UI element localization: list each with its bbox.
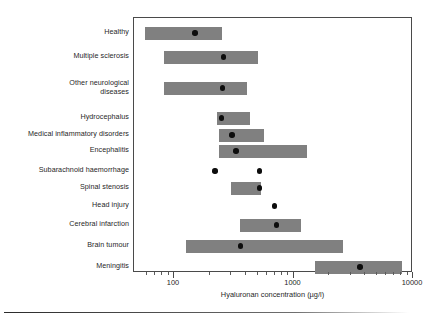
x-tick-major [173,272,174,278]
range-bar [240,219,301,232]
median-dot [229,132,234,137]
range-bar [164,51,257,64]
category-label: Head injury [0,201,129,209]
category-label: Hydrocephalus [0,113,129,121]
data-point-dot [257,168,262,173]
x-tick-minor [209,272,210,275]
x-tick-minor [161,272,162,275]
category-label: Cerebral infarction [0,220,129,228]
median-dot [221,54,226,59]
median-dot [192,30,197,35]
category-label: Healthy [0,28,129,36]
range-bar [219,129,264,142]
x-tick-minor [393,272,394,275]
x-tick-minor [257,272,258,275]
x-axis-title: Hyaluronan concentration (µg/l) [133,290,412,299]
x-tick-minor [364,272,365,275]
x-tick-minor [376,272,377,275]
range-bar [145,27,222,40]
median-dot [257,185,262,190]
x-tick-label: 10000 [402,278,423,287]
x-tick-minor [385,272,386,275]
median-dot [238,243,243,248]
median-dot [233,148,238,153]
x-tick-minor [400,272,401,275]
category-label: Other neurological diseases [0,79,129,96]
x-axis: 100100010000 [133,272,412,282]
plot-frame [133,17,412,272]
x-tick-minor [350,272,351,275]
x-tick-minor [154,272,155,275]
median-dot [272,203,277,208]
x-tick-label: 1000 [284,278,300,287]
category-label: Spinal stenosis [0,183,129,191]
category-axis: HealthyMultiple sclerosisOther neurologi… [0,17,129,272]
median-dot [274,222,279,227]
category-label: Meningitis [0,262,129,270]
range-bar [164,82,247,95]
x-tick-minor [287,272,288,275]
x-tick-label: 100 [167,278,179,287]
x-tick-major [412,272,413,278]
median-dot [357,264,362,269]
chart-figure: HealthyMultiple sclerosisOther neurologi… [0,0,433,321]
median-dot [212,168,217,173]
range-bar [186,240,344,253]
category-label: Subarachnoid haemorrhage [0,166,129,174]
x-tick-minor [146,272,147,275]
median-dot [220,85,225,90]
category-label: Medical inflammatory disorders [0,130,129,138]
x-tick-minor [230,272,231,275]
x-tick-minor [274,272,275,275]
x-tick-minor [281,272,282,275]
category-label: Brain tumour [0,241,129,249]
median-dot [219,115,224,120]
x-tick-major [293,272,294,278]
plot-area [134,18,411,271]
x-tick-minor [245,272,246,275]
x-tick-minor [328,272,329,275]
x-tick-minor [266,272,267,275]
x-tick-minor [168,272,169,275]
category-label: Encephalitis [0,146,129,154]
bottom-rule-divider [4,312,409,313]
category-label: Multiple sclerosis [0,52,129,60]
x-tick-minor [407,272,408,275]
